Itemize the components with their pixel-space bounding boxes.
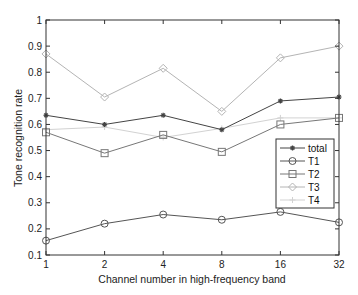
legend-label: T1	[308, 156, 320, 167]
y-tick-label: 0.8	[28, 67, 42, 78]
legend-label: total	[308, 143, 327, 154]
series-t4	[43, 115, 342, 141]
series-total	[44, 95, 342, 133]
asterisk-marker-icon	[290, 146, 295, 151]
y-tick-label: 0.6	[28, 119, 42, 130]
asterisk-marker-icon	[219, 127, 224, 132]
x-tick-label: 4	[160, 259, 166, 270]
y-tick-label: 0.2	[28, 223, 42, 234]
series-t1	[43, 208, 343, 244]
x-tick-label: 1	[43, 259, 49, 270]
y-axis: 0.10.20.30.40.50.60.70.80.91	[28, 15, 339, 261]
legend-label: T2	[308, 169, 320, 180]
x-tick-label: 16	[275, 259, 287, 270]
x-axis-label: Channel number in high-frequency band	[98, 273, 286, 285]
y-tick-label: 0.1	[28, 250, 42, 261]
y-tick-label: 1	[36, 15, 42, 26]
x-tick-label: 2	[102, 259, 108, 270]
series-line	[46, 118, 339, 138]
y-tick-label: 0.9	[28, 41, 42, 52]
series-line	[46, 97, 339, 130]
asterisk-marker-icon	[278, 98, 283, 103]
y-axis-label: Tone recognition rate	[12, 89, 24, 187]
x-tick-label: 8	[219, 259, 225, 270]
asterisk-marker-icon	[161, 113, 166, 118]
x-tick-label: 32	[333, 259, 345, 270]
y-tick-label: 0.5	[28, 145, 42, 156]
legend-label: T3	[308, 182, 320, 193]
series-line	[46, 46, 339, 111]
plus-marker-icon	[277, 115, 283, 121]
series-t3	[42, 42, 343, 115]
legend-label: T4	[308, 195, 320, 206]
y-tick-label: 0.4	[28, 171, 42, 182]
y-tick-label: 0.3	[28, 197, 42, 208]
series-line	[46, 212, 339, 241]
asterisk-marker-icon	[102, 122, 107, 127]
line-chart: 0.10.20.30.40.50.60.70.80.91 12481632 Ch…	[0, 0, 358, 295]
legend: totalT1T2T3T4	[276, 139, 334, 208]
y-tick-label: 0.7	[28, 93, 42, 104]
